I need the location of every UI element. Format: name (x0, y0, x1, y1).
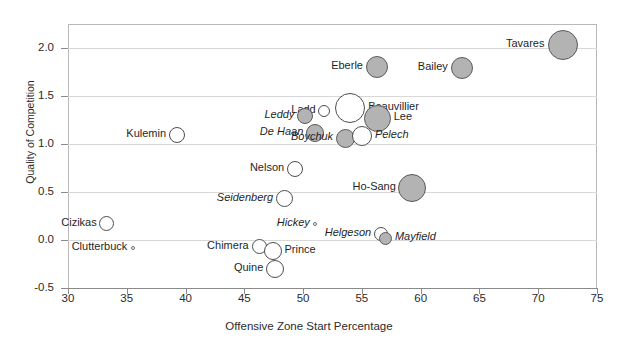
y-axis-title: Quality of Competition (24, 32, 36, 232)
x-tick-label: 40 (166, 292, 206, 304)
point-label-lee: Lee (394, 110, 412, 122)
data-point-beauvillier[interactable] (335, 93, 365, 123)
data-point-hickey[interactable] (313, 222, 317, 226)
point-label-leddy: Leddy (264, 108, 294, 120)
point-label-mayfield: Mayfield (395, 230, 436, 242)
x-tick-label: 45 (224, 292, 264, 304)
point-label-helgeson: Helgeson (325, 226, 371, 238)
y-tick (61, 48, 68, 49)
x-tick-label: 30 (48, 292, 88, 304)
gridline-horizontal (68, 192, 597, 193)
x-tick-label: 55 (342, 292, 382, 304)
point-label-ho-sang: Ho-Sang (352, 180, 395, 192)
point-label-prince: Prince (285, 243, 316, 255)
point-label-chimera: Chimera (207, 239, 249, 251)
data-point-prince[interactable] (264, 242, 282, 260)
y-tick (61, 192, 68, 193)
point-label-hickey: Hickey (277, 216, 310, 228)
point-label-nelson: Nelson (250, 161, 284, 173)
data-point-clutterbuck[interactable] (131, 246, 135, 250)
gridline-horizontal (68, 144, 597, 145)
y-tick (61, 288, 68, 289)
data-point-seidenberg[interactable] (276, 190, 293, 207)
data-point-quine[interactable] (266, 260, 284, 278)
x-tick-label: 70 (518, 292, 558, 304)
x-tick-label: 65 (459, 292, 499, 304)
gridline-horizontal (68, 240, 597, 241)
point-label-cizikas: Cizikas (61, 216, 96, 228)
point-label-eberle: Eberle (331, 59, 363, 71)
point-label-clutterbuck: Clutterbuck (72, 240, 128, 252)
point-label-kulemin: Kulemin (126, 127, 166, 139)
x-tick-label: 35 (107, 292, 147, 304)
point-label-quine: Quine (234, 261, 263, 273)
x-axis-line (68, 288, 598, 289)
data-point-tavares[interactable] (548, 30, 578, 60)
y-tick (61, 96, 68, 97)
point-label-pelech: Pelech (375, 128, 409, 140)
data-point-bailey[interactable] (451, 57, 473, 79)
x-tick-label: 75 (577, 292, 617, 304)
y-tick (61, 144, 68, 145)
y-tick-label: 0.0 (20, 233, 54, 245)
y-tick (61, 240, 68, 241)
point-label-bailey: Bailey (418, 60, 448, 72)
point-label-seidenberg: Seidenberg (217, 191, 273, 203)
bubble-chart: 2.01.51.00.50.0-0.5 30354045505560657075… (0, 0, 618, 344)
data-point-nelson[interactable] (287, 161, 303, 177)
data-point-mayfield[interactable] (379, 232, 392, 245)
x-tick-label: 50 (283, 292, 323, 304)
x-tick-label: 60 (401, 292, 441, 304)
x-axis-title: Offensive Zone Start Percentage (0, 320, 618, 332)
gridline-horizontal (68, 96, 597, 97)
point-label-tavares: Tavares (506, 37, 545, 49)
point-label-boychuk: Boychuk (291, 130, 333, 142)
